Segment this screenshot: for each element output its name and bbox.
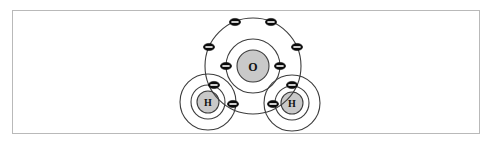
oxygen-label: O	[248, 60, 257, 74]
electron-icon	[286, 81, 297, 88]
electron-icon	[220, 62, 231, 69]
hydrogen-left-label: H	[204, 97, 212, 108]
electron-icon	[267, 100, 278, 107]
electron-icon	[208, 81, 219, 88]
electron-icon	[229, 18, 240, 25]
electron-icon	[203, 43, 214, 50]
figure-canvas: H H O	[0, 0, 495, 145]
electron-icon	[265, 18, 276, 25]
electron-icon	[291, 43, 302, 50]
oxygen-outer-shell-electrons	[203, 18, 302, 50]
water-molecule-bohr-diagram: H H O	[0, 0, 495, 145]
electron-icon	[227, 100, 238, 107]
electron-icon	[274, 62, 285, 69]
atom-oxygen: O	[205, 18, 301, 114]
hydrogen-right-label: H	[288, 98, 296, 109]
